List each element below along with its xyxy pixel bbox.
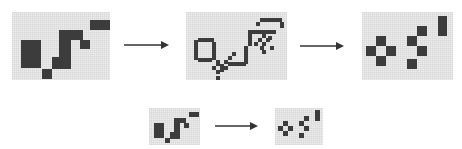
live-cell-block bbox=[260, 46, 264, 50]
pattern-evolution-diagram bbox=[0, 0, 462, 149]
live-cell-block bbox=[194, 40, 198, 60]
small-final-pattern-panel bbox=[275, 108, 323, 145]
live-cell-block bbox=[270, 46, 274, 50]
live-cell-block bbox=[224, 66, 228, 70]
live-cell-block bbox=[154, 123, 164, 138]
live-cell-block bbox=[288, 126, 293, 131]
live-cell-block bbox=[438, 16, 447, 36]
top-row bbox=[12, 12, 453, 80]
live-cell-block bbox=[59, 30, 71, 58]
live-cell-block bbox=[244, 46, 248, 50]
live-cell-block bbox=[258, 38, 262, 42]
live-cell-block bbox=[278, 126, 283, 131]
live-cell-block bbox=[52, 57, 71, 69]
live-cell-block bbox=[366, 46, 376, 56]
small-initial-pattern-panel bbox=[149, 108, 200, 145]
live-cell-block bbox=[407, 59, 417, 69]
live-cell-block bbox=[262, 42, 266, 46]
live-cell-block bbox=[180, 118, 186, 123]
live-cell-block bbox=[299, 121, 304, 126]
live-cell-block bbox=[184, 123, 189, 128]
live-cell-block bbox=[220, 68, 224, 72]
final-pattern-panel bbox=[362, 12, 453, 80]
live-cell-block bbox=[283, 121, 288, 126]
live-cell-block bbox=[174, 118, 180, 133]
live-cell-block bbox=[376, 36, 386, 46]
live-cell-block bbox=[299, 133, 304, 138]
live-cell-block bbox=[417, 46, 427, 56]
live-cell-block bbox=[260, 18, 282, 22]
live-cell-block bbox=[248, 30, 252, 46]
live-cell-block bbox=[216, 60, 220, 66]
live-cell-block bbox=[212, 42, 216, 60]
live-cell-block bbox=[212, 66, 216, 70]
live-cell-block bbox=[256, 22, 260, 26]
live-cell-block bbox=[170, 132, 180, 139]
live-cell-block bbox=[304, 116, 309, 121]
live-cell-block bbox=[228, 56, 232, 60]
live-cell-block bbox=[216, 76, 220, 80]
live-cell-block bbox=[266, 38, 270, 42]
live-cell-block bbox=[417, 26, 427, 36]
initial-pattern-panel bbox=[12, 12, 110, 80]
live-cell-block bbox=[42, 69, 52, 79]
live-cell-block bbox=[232, 52, 236, 56]
live-cell-block bbox=[283, 131, 288, 136]
live-cell-block bbox=[254, 42, 258, 46]
live-cell-block bbox=[90, 20, 110, 30]
live-cell-block bbox=[262, 50, 266, 54]
live-cell-block bbox=[198, 58, 212, 62]
live-cell-block bbox=[252, 30, 276, 34]
live-cell-block bbox=[386, 46, 396, 56]
live-cell-block bbox=[262, 34, 266, 38]
live-cell-block bbox=[376, 56, 386, 66]
live-cell-block bbox=[71, 30, 83, 40]
live-cell-block bbox=[315, 110, 320, 121]
intermediate-pattern-panel bbox=[186, 12, 287, 80]
live-cell-block bbox=[407, 36, 417, 46]
bottom-row bbox=[149, 108, 323, 145]
live-cell-block bbox=[304, 126, 309, 131]
live-cell-block bbox=[165, 138, 170, 143]
live-cell-block bbox=[21, 40, 41, 68]
live-cell-block bbox=[244, 50, 248, 64]
live-cell-block bbox=[80, 40, 90, 49]
live-cell-block bbox=[280, 22, 284, 28]
live-cell-block bbox=[198, 38, 214, 42]
live-cell-block bbox=[216, 70, 220, 74]
live-cell-block bbox=[189, 112, 199, 117]
live-cell-block bbox=[228, 62, 246, 66]
live-cell-block bbox=[224, 60, 228, 64]
